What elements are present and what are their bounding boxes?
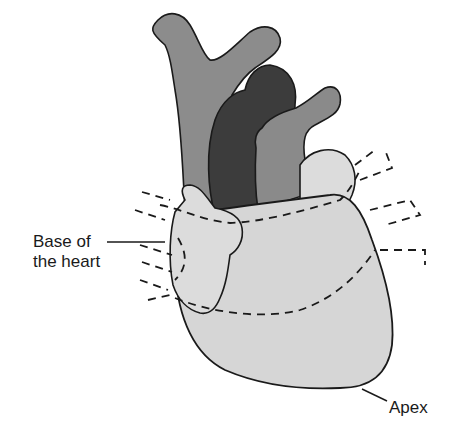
base-of-heart-label: Base of the heart: [33, 232, 100, 272]
heart-diagram: [0, 0, 456, 439]
left-vessel-stubs: [135, 192, 172, 300]
apex-leader-line: [362, 389, 387, 401]
base-label-line1: Base of: [33, 232, 100, 252]
base-label-line2: the heart: [33, 252, 100, 272]
apex-label: Apex: [389, 398, 428, 418]
